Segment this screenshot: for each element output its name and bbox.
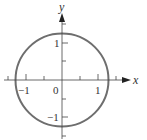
y-axis-label: y: [58, 0, 65, 14]
origin-label: 0: [53, 84, 59, 96]
x-axis-label: x: [132, 73, 139, 87]
x-tick-label-1: 1: [95, 84, 101, 96]
y-tick-label-1: 1: [54, 37, 60, 49]
y-axis-arrow-icon: [59, 13, 65, 22]
x-axis-arrow-icon: [122, 77, 131, 83]
x-tick-label-neg1: −1: [18, 84, 30, 96]
circle-diagram: y x 0 −1 1 1 −1: [0, 0, 147, 140]
y-tick-label-neg1: −1: [47, 111, 59, 123]
